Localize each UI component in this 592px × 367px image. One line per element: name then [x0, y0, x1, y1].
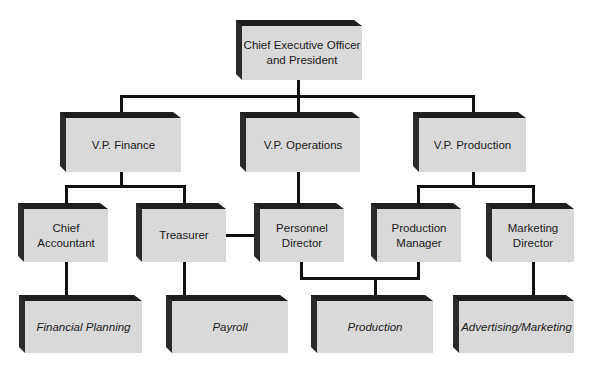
node-label: Production: [317, 301, 433, 353]
node-label: Payroll: [172, 301, 288, 353]
connector-to-production: [374, 277, 377, 296]
node-label-line2: Director: [508, 236, 559, 251]
node-treasurer: Treasurer: [136, 203, 226, 262]
node-production: Production: [311, 295, 433, 353]
connector-to-marketing-director: [532, 185, 535, 204]
node-label-line1: Marketing: [508, 221, 559, 236]
connector-to-treasurer: [183, 185, 186, 204]
connector-finance-bar: [65, 185, 186, 188]
node-label-line1: Personnel: [276, 221, 328, 236]
connector-chief-accountant-down: [65, 262, 68, 296]
node-label-line2: Manager: [392, 236, 447, 251]
connector-to-chief-accountant: [65, 185, 68, 204]
node-financial-planning: Financial Planning: [19, 295, 142, 353]
node-production-manager: Production Manager: [371, 203, 461, 262]
node-label: V.P. Finance: [66, 118, 181, 172]
connector-to-vp-production: [472, 95, 475, 113]
node-label: Marketing Director: [492, 209, 574, 262]
connector-vp-operations-to-personnel: [297, 172, 300, 204]
node-label: Advertising/Marketing: [459, 301, 574, 353]
connector-treasurer-personnel: [226, 234, 254, 237]
node-label-line2: Director: [276, 236, 328, 251]
connector-to-vp-operations: [297, 95, 300, 113]
connector-to-vp-finance: [120, 95, 123, 113]
node-label: Financial Planning: [25, 301, 142, 353]
connector-production-bar: [417, 185, 535, 188]
node-ceo: Chief Executive Officer and President: [236, 20, 362, 80]
node-label-line2: and President: [244, 53, 361, 68]
node-vp-production: V.P. Production: [413, 112, 526, 172]
node-label-line1: Chief: [37, 221, 95, 236]
node-label: Production Manager: [377, 209, 461, 262]
node-personnel-director: Personnel Director: [254, 203, 344, 262]
node-vp-finance: V.P. Finance: [60, 112, 181, 172]
node-advertising-marketing: Advertising/Marketing: [453, 295, 574, 353]
node-marketing-director: Marketing Director: [486, 203, 574, 262]
connector-treasurer-down: [183, 262, 186, 296]
node-label-line1: Chief Executive Officer: [244, 38, 361, 53]
node-label: Chief Accountant: [24, 209, 108, 262]
connector-to-production-manager: [417, 185, 420, 204]
node-payroll: Payroll: [166, 295, 288, 353]
connector-marketing-down: [532, 262, 535, 296]
node-label: V.P. Production: [419, 118, 526, 172]
node-vp-operations: V.P. Operations: [240, 112, 360, 172]
connector-ops-production-bar: [300, 277, 420, 280]
node-label: Treasurer: [142, 209, 226, 262]
node-label-line1: Production: [392, 221, 447, 236]
node-label: V.P. Operations: [246, 118, 360, 172]
node-label-line2: Accountant: [37, 236, 95, 251]
node-label: Personnel Director: [260, 209, 344, 262]
node-chief-accountant: Chief Accountant: [18, 203, 108, 262]
org-chart: Chief Executive Officer and President V.…: [0, 0, 592, 367]
node-label: Chief Executive Officer and President: [242, 26, 362, 80]
